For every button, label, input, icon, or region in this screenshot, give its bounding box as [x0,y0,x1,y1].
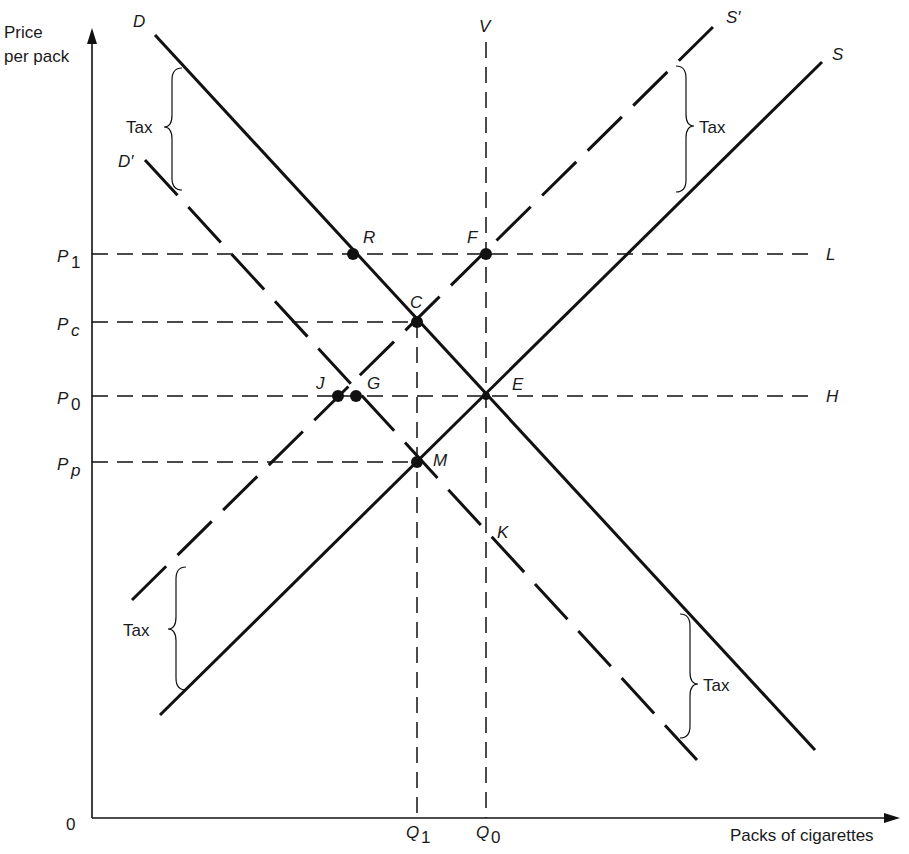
label-M: M [433,451,448,470]
y-axis-label-line1: Price [4,23,43,42]
label-C: C [410,293,423,312]
tax-label-lower-left: Tax [123,621,150,640]
label-K: K [497,523,509,542]
tax-brace-icon [676,66,694,192]
supply-curve-S-prime [132,24,716,600]
label-V: V [479,17,492,36]
label-L: L [826,245,835,264]
y-axis-label-line2: per pack [4,47,70,66]
label-D-prime: D′ [118,152,134,171]
svg-text:c: c [71,321,80,340]
point-C [411,316,423,328]
origin-label: 0 [66,815,75,834]
tax-brace-icon [680,614,698,738]
y-tick-P1: P 1 [57,247,80,272]
x-axis-label: Packs of cigarettes [730,826,874,845]
tax-label-upper-left: Tax [126,118,153,137]
supply-curve-S [160,62,822,715]
x-axis-arrow-icon [884,813,900,823]
label-S-prime: S′ [726,8,741,27]
point-M [411,456,423,468]
svg-text:P: P [57,455,69,474]
label-E: E [512,375,524,394]
svg-text:Q: Q [476,823,489,842]
tax-label-lower-right: Tax [703,676,730,695]
y-tick-Pc: P c [57,315,80,340]
x-tick-Q0: Q 0 [476,823,500,847]
svg-text:P: P [57,315,69,334]
svg-text:1: 1 [421,828,430,847]
svg-text:0: 0 [491,828,500,847]
point-E [482,392,490,400]
label-S: S [832,45,844,64]
label-D: D [133,12,145,31]
svg-text:P: P [57,389,69,408]
point-F [480,248,492,260]
svg-text:p: p [70,461,80,480]
tax-brace-icon [168,567,186,690]
label-J: J [315,374,325,393]
label-G: G [367,374,380,393]
svg-text:1: 1 [71,253,80,272]
label-R: R [363,228,375,247]
y-tick-P0: P 0 [57,389,80,414]
tax-incidence-diagram: Price per pack Packs of cigarettes 0 P 1… [0,0,909,854]
x-tick-Q1: Q 1 [406,823,430,847]
point-G [350,390,362,402]
tax-label-upper-right: Tax [699,118,726,137]
svg-text:0: 0 [71,395,80,414]
label-F: F [467,228,479,247]
svg-text:Q: Q [406,823,419,842]
point-J [332,390,344,402]
y-tick-Pp: P p [57,455,80,480]
svg-text:P: P [57,247,69,266]
point-R [347,248,359,260]
tax-brace-icon [164,68,182,190]
label-H: H [826,387,839,406]
y-axis-arrow-icon [87,28,97,44]
